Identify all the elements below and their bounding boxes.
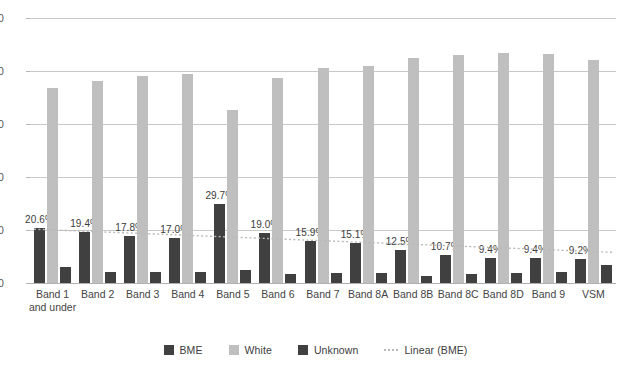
bar-bme (169, 238, 180, 283)
bar-bme (124, 236, 135, 283)
x-axis-label: Band 7 (306, 288, 339, 301)
bar-bme (214, 204, 225, 283)
bar-group: 15.9% (305, 18, 342, 283)
legend-label: Linear (BME) (404, 344, 467, 356)
x-axis-label: Band 3 (126, 288, 159, 301)
bar-group: 12.5% (395, 18, 432, 283)
bar-unknown (60, 267, 71, 283)
y-axis-tick-label: 80 (0, 65, 4, 77)
bar-group: 15.1% (350, 18, 387, 283)
y-axis-tick-label: 100 (0, 12, 4, 24)
bar-groups: 20.6%19.4%17.8%17.0%29.7%19.0%15.9%15.1%… (30, 18, 616, 283)
bar-group: 20.6% (34, 18, 71, 283)
bar-group: 29.7% (214, 18, 251, 283)
x-axis-label: Band 4 (171, 288, 204, 301)
bar-bme (575, 259, 586, 283)
x-axis-label: Band 5 (216, 288, 249, 301)
y-axis-tick-label: 40 (0, 171, 4, 183)
bar-white (272, 78, 283, 283)
bar-group: 10.7% (440, 18, 477, 283)
bar-white (92, 81, 103, 283)
legend-label: White (245, 344, 272, 356)
bar-unknown (285, 274, 296, 283)
bar-bme (259, 233, 270, 283)
bar-white (227, 110, 238, 283)
x-axis-label: Band 6 (261, 288, 294, 301)
bar-unknown (421, 276, 432, 283)
x-axis-label: Band 8A (348, 288, 388, 301)
y-axis: 020406080100 (0, 0, 30, 283)
x-axis-category-labels: Band 1 and underBand 2Band 3Band 4Band 5… (30, 288, 616, 324)
legend-item-bme[interactable]: BME (164, 344, 203, 356)
y-axis-tick-mark (26, 283, 30, 284)
bar-group: 9.4% (530, 18, 567, 283)
x-axis-label: Band 8C (438, 288, 479, 301)
chart-legend: BMEWhiteUnknownLinear (BME) (0, 344, 631, 356)
bar-white (363, 66, 374, 283)
bar-bme (395, 250, 406, 283)
legend-color-swatch (164, 345, 174, 355)
legend-item-unknown[interactable]: Unknown (298, 344, 358, 356)
bar-white (137, 76, 148, 283)
bar-white (543, 54, 554, 283)
x-axis-label: Band 8B (393, 288, 433, 301)
bar-bme (79, 232, 90, 283)
bar-white (408, 58, 419, 283)
legend-color-swatch (229, 345, 239, 355)
bar-unknown (331, 273, 342, 283)
legend-item-white[interactable]: White (229, 344, 272, 356)
bar-white (47, 88, 58, 283)
bar-white (453, 55, 464, 283)
legend-label: Unknown (314, 344, 358, 356)
bar-unknown (150, 272, 161, 283)
bar-group: 9.2% (575, 18, 612, 283)
legend-color-swatch (298, 345, 308, 355)
bar-white (588, 60, 599, 283)
bar-unknown (105, 272, 116, 283)
bar-bme (530, 258, 541, 283)
y-axis-tick-label: 0 (0, 277, 4, 289)
legend-label: BME (180, 344, 203, 356)
bar-group: 17.8% (124, 18, 161, 283)
x-axis-label: Band 1 and under (29, 288, 76, 313)
x-axis-label: Band 9 (532, 288, 565, 301)
bar-unknown (511, 273, 522, 283)
bar-group: 9.4% (485, 18, 522, 283)
bar-bme (305, 241, 316, 283)
bar-white (498, 53, 509, 283)
bar-bme (350, 243, 361, 283)
bar-group: 19.0% (259, 18, 296, 283)
bar-white (182, 74, 193, 283)
legend-item-linear-bme[interactable]: Linear (BME) (384, 344, 467, 356)
bar-unknown (556, 272, 567, 283)
bar-bme (440, 255, 451, 283)
bar-group: 19.4% (79, 18, 116, 283)
legend-line-swatch (384, 349, 398, 351)
x-axis-label: Band 8D (483, 288, 524, 301)
bar-unknown (195, 272, 206, 283)
x-axis-label: Band 2 (81, 288, 114, 301)
plot-area: 20.6%19.4%17.8%17.0%29.7%19.0%15.9%15.1%… (30, 18, 616, 283)
bar-unknown (376, 273, 387, 283)
y-axis-tick-label: 60 (0, 118, 4, 130)
y-axis-tick-label: 20 (0, 224, 4, 236)
x-axis-label: VSM (582, 288, 605, 301)
bar-white (318, 68, 329, 283)
bar-unknown (601, 265, 612, 283)
bar-unknown (466, 274, 477, 283)
bar-bme (485, 258, 496, 283)
chart-container: 020406080100 20.6%19.4%17.8%17.0%29.7%19… (0, 0, 631, 373)
bar-unknown (240, 270, 251, 283)
bar-group: 17.0% (169, 18, 206, 283)
bar-bme (34, 228, 45, 283)
gridline (30, 283, 616, 284)
